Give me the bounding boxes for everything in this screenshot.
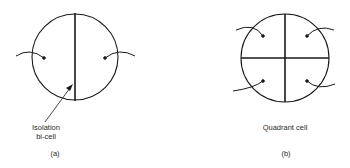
isolation-bicell-label: Isolation bi-cell [22,123,70,141]
bi-cell-diagram [16,13,135,122]
quadrant-top-right-contact [306,35,309,38]
bi-cell-right-lead [105,52,135,58]
isolation-label-line1: Isolation [22,123,70,132]
quadrant-bottom-left-contact [262,80,265,83]
bi-cell-right-contact [104,57,107,60]
isolation-label-line2: bi-cell [22,132,70,141]
diagram-canvas [0,0,350,168]
caption-b: (b) [276,149,296,158]
isolation-arrowhead [66,84,73,91]
isolation-arrow [45,88,70,122]
bi-cell-left-lead [16,52,44,58]
quadrant-cell-label: Quadrant cell [255,123,315,132]
caption-a: (a) [45,149,65,158]
quadrant-bottom-right-contact [306,80,309,83]
bi-cell-left-contact [43,57,46,60]
quadrant-cell-diagram [233,14,335,102]
quadrant-top-left-contact [262,35,265,38]
